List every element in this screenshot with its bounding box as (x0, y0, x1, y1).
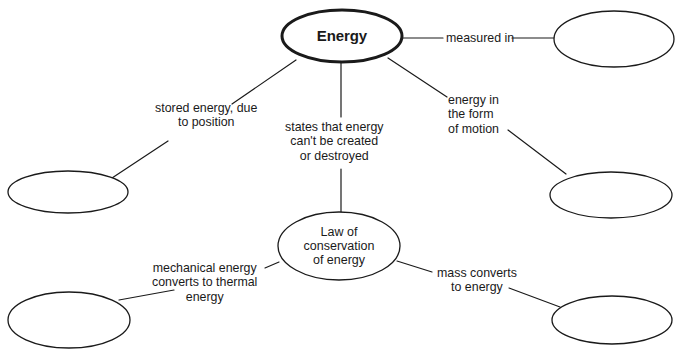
concept-map-graphics (0, 0, 682, 358)
edge-segment (265, 262, 279, 268)
edge-segment (119, 290, 174, 300)
node-ellipse-nuclear-energy[interactable] (552, 296, 672, 344)
node-ellipse-energy[interactable] (282, 10, 402, 62)
edge-segment (508, 130, 566, 174)
edge-segment (112, 141, 168, 178)
edge-segment (232, 60, 296, 104)
node-ellipse-potential-energy[interactable] (8, 171, 128, 213)
node-ellipse-kinetic-energy[interactable] (550, 172, 672, 218)
concept-map-canvas: EnergyLaw of conservation of energy meas… (0, 0, 682, 358)
edge-segment (388, 58, 447, 97)
edge-segment (509, 288, 560, 307)
node-ellipse-measured-unit[interactable] (554, 11, 674, 67)
edge-segment (397, 261, 432, 272)
edge-law-to-nuclear-energy (397, 261, 560, 307)
node-ellipse-law-of-conservation[interactable] (278, 212, 400, 280)
node-ellipse-friction[interactable] (8, 292, 130, 348)
edge-energy-to-potential-energy (112, 60, 296, 178)
edge-energy-to-kinetic-energy (388, 58, 566, 174)
edge-law-to-friction (119, 262, 279, 300)
